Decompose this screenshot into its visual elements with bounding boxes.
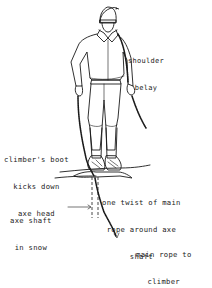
legs (88, 84, 121, 150)
axe-head (74, 172, 132, 178)
label-main-rope: main rope to climber (136, 232, 192, 288)
label-shoulder-belay: shoulder belay (128, 39, 164, 111)
rope-left (78, 96, 94, 176)
collar (99, 30, 117, 38)
label-axe-shaft: axe shaft in snow (10, 198, 52, 270)
helmet-icon (100, 7, 119, 32)
jacket (71, 34, 133, 86)
